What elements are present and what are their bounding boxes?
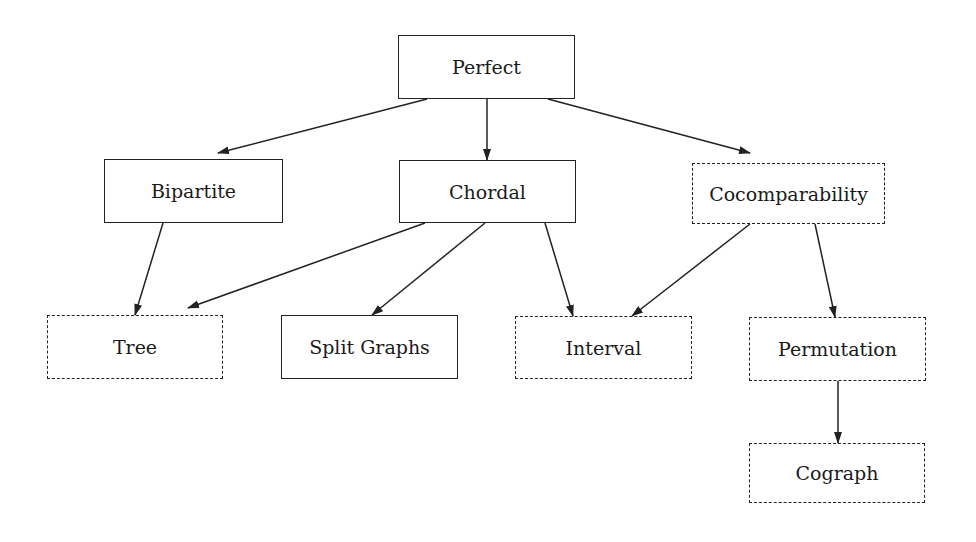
node-perfect: Perfect <box>398 35 575 99</box>
node-label: Split Graphs <box>309 336 430 358</box>
edge-bipartite-to-tree <box>135 223 163 315</box>
edge-cocomparability-to-interval <box>632 224 750 316</box>
edge-perfect-to-bipartite <box>218 99 427 153</box>
node-label: Permutation <box>778 338 897 360</box>
node-label: Tree <box>113 336 157 358</box>
edge-chordal-to-tree <box>188 223 425 308</box>
node-label: Cograph <box>796 462 879 484</box>
edge-chordal-to-interval <box>545 223 573 316</box>
edge-chordal-to-split <box>372 223 485 315</box>
node-interval: Interval <box>515 316 692 379</box>
node-tree: Tree <box>47 315 223 379</box>
node-label: Perfect <box>452 56 521 78</box>
node-label: Chordal <box>449 181 526 203</box>
edge-cocomparability-to-permutation <box>815 224 835 317</box>
node-label: Interval <box>566 337 642 359</box>
node-split-graphs: Split Graphs <box>281 315 458 379</box>
node-bipartite: Bipartite <box>104 159 283 223</box>
node-label: Bipartite <box>151 180 236 202</box>
graph-class-hierarchy-diagram: Perfect Bipartite Chordal Cocomparabilit… <box>0 0 976 542</box>
node-cocomparability: Cocomparability <box>692 163 885 224</box>
node-cograph: Cograph <box>749 443 925 503</box>
edge-perfect-to-cocomparability <box>548 99 750 153</box>
node-permutation: Permutation <box>749 317 926 381</box>
node-chordal: Chordal <box>399 160 576 223</box>
node-label: Cocomparability <box>709 183 868 205</box>
